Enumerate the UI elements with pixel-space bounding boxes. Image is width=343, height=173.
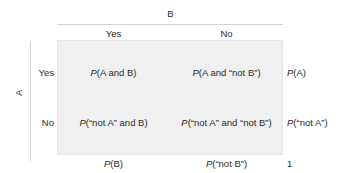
row-header-no: No bbox=[32, 118, 54, 128]
cell-not-a-and-b: P(“not A” and B) bbox=[57, 118, 170, 128]
margin-right-p-not-a: P(“not A”) bbox=[287, 118, 328, 128]
row-variable-label: A bbox=[14, 82, 24, 104]
cell-a-and-b-argument: (A and B) bbox=[97, 67, 137, 78]
cell-not-a-and-not-b: P(“not A” and “not B”) bbox=[170, 118, 283, 128]
column-header-yes: Yes bbox=[57, 29, 170, 39]
column-header-no: No bbox=[170, 29, 283, 39]
margin-bottom-p-not-b: P(“not B”) bbox=[170, 159, 283, 169]
margin-bottom-p-b: P(B) bbox=[57, 159, 170, 169]
column-header-rule bbox=[57, 24, 283, 25]
margin-right-p-a: P(A) bbox=[287, 68, 306, 78]
row-header-rule bbox=[30, 41, 31, 161]
cell-not-a-and-b-argument: (“not A” and B) bbox=[86, 117, 148, 128]
margin-right-p-not-a-argument: (“not A”) bbox=[293, 117, 327, 128]
margin-right-p-a-argument: (A) bbox=[293, 67, 306, 78]
matrix-body bbox=[57, 40, 283, 155]
row-header-yes: Yes bbox=[32, 68, 54, 78]
cell-not-a-and-not-b-argument: (“not A” and “not B”) bbox=[188, 117, 272, 128]
margin-bottom-p-b-argument: (B) bbox=[110, 158, 123, 169]
probability-contingency-table: B Yes No A Yes No P(A and B) P(A and “no… bbox=[0, 0, 343, 173]
grand-total-value: 1 bbox=[287, 159, 292, 169]
cell-a-and-not-b-argument: (A and “not B”) bbox=[199, 67, 261, 78]
cell-a-and-not-b: P(A and “not B”) bbox=[170, 68, 283, 78]
column-variable-label: B bbox=[0, 9, 343, 19]
cell-a-and-b: P(A and B) bbox=[57, 68, 170, 78]
margin-bottom-p-not-b-argument: (“not B”) bbox=[212, 158, 247, 169]
